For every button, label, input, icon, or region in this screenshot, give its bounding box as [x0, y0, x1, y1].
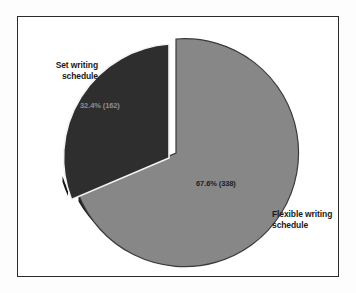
- pie-label-flexible-writing-schedule-line1: Flexible writing: [272, 209, 350, 220]
- pie-label-set-writing-schedule: Set writing schedule: [18, 60, 98, 81]
- pie-label-flexible-writing-schedule-line2: schedule: [272, 220, 350, 231]
- pie-label-set-writing-schedule-line1: Set writing: [18, 60, 98, 71]
- pie-label-flexible-writing-schedule: Flexible writing schedule: [272, 209, 350, 230]
- pie-value-flexible-writing-schedule: 67.6% (338): [196, 179, 236, 188]
- pie-label-set-writing-schedule-line2: schedule: [18, 71, 98, 82]
- pie-chart-figure: Set writing schedule Flexible writing sc…: [0, 0, 356, 293]
- pie-chart-canvas: [0, 0, 356, 293]
- pie-value-set-writing-schedule: 32.4% (162): [80, 101, 120, 110]
